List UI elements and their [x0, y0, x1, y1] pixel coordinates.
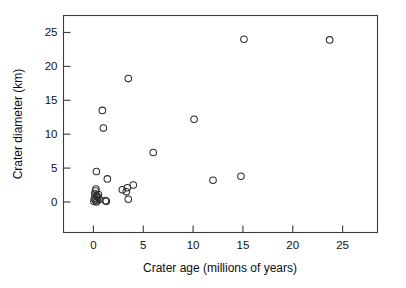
x-tick-label-5: 5 [140, 239, 146, 251]
data-point [125, 196, 132, 203]
x-tick-label-25: 25 [336, 239, 349, 251]
x-tick-label-15: 15 [237, 239, 250, 251]
x-tick-label-0: 0 [90, 239, 96, 251]
data-point [99, 107, 106, 114]
data-point [104, 176, 111, 183]
y-tick-label-10: 10 [45, 128, 58, 140]
data-point [241, 36, 248, 43]
data-point [191, 116, 198, 123]
y-tick-label-0: 0 [51, 196, 57, 208]
x-axis-ticks [93, 226, 342, 233]
y-tick-label-20: 20 [45, 60, 58, 72]
x-axis-title: Crater age (millions of years) [143, 261, 297, 275]
data-point [326, 37, 333, 44]
data-point [238, 173, 245, 180]
x-axis-tick-labels: 0510152025 [90, 239, 349, 251]
y-tick-label-25: 25 [45, 26, 58, 38]
x-tick-label-20: 20 [286, 239, 299, 251]
y-axis-tick-labels: 0510152025 [45, 26, 58, 208]
data-point [125, 75, 132, 82]
y-axis-title: Crater diameter (km) [11, 69, 25, 180]
data-point [93, 168, 100, 175]
y-tick-label-15: 15 [45, 94, 58, 106]
y-tick-label-5: 5 [51, 162, 57, 174]
plot-frame [64, 16, 378, 233]
y-axis-ticks [64, 32, 71, 202]
data-point [150, 149, 157, 156]
data-point-group [91, 36, 333, 205]
data-point [210, 177, 217, 184]
scatter-plot-figure: 0510152025 0510152025 Crater age (millio… [0, 0, 406, 288]
plot-canvas: 0510152025 0510152025 Crater age (millio… [0, 0, 406, 288]
data-point [123, 189, 130, 196]
data-point [100, 125, 107, 132]
x-tick-label-10: 10 [187, 239, 200, 251]
